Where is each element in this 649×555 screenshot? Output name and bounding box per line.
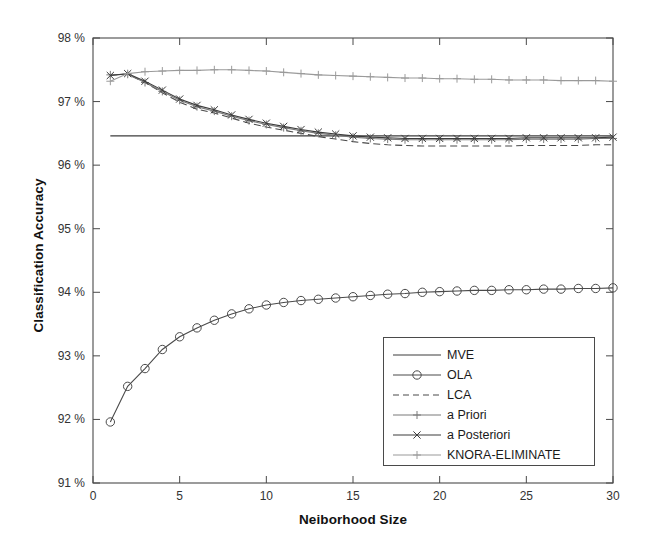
legend-swatch-knora-eliminate-icon: [391, 445, 443, 465]
legend-label: KNORA-ELIMINATE: [447, 448, 561, 462]
legend-swatch-a-priori-icon: [391, 405, 443, 425]
chart-legend: MVEOLALCAa Prioria PosterioriKNORA-ELIMI…: [383, 337, 595, 466]
series-lca: [110, 74, 613, 146]
legend-item-lca[interactable]: LCA: [384, 384, 596, 405]
legend-item-mve[interactable]: MVE: [384, 344, 596, 365]
legend-swatch-lca-icon: [391, 385, 443, 405]
legend-swatch-a-posteriori-icon: [391, 425, 443, 445]
legend-item-a-posteriori[interactable]: a Posteriori: [384, 424, 596, 445]
legend-swatch-ola-icon: [391, 365, 443, 385]
plot-canvas: [0, 0, 649, 555]
legend-label: a Priori: [447, 408, 487, 422]
legend-item-ola[interactable]: OLA: [384, 364, 596, 385]
legend-label: a Posteriori: [447, 428, 510, 442]
legend-swatch-mve-icon: [391, 345, 443, 365]
series-a-posteriori: [107, 70, 617, 142]
legend-label: LCA: [447, 388, 471, 402]
series-a-priori: [106, 70, 617, 143]
legend-label: MVE: [447, 348, 474, 362]
legend-label: OLA: [447, 368, 472, 382]
chart-figure: Classification Accuracy Neiborhood Size …: [0, 0, 649, 555]
legend-item-a-priori[interactable]: a Priori: [384, 404, 596, 425]
series-knora-eliminate: [106, 66, 617, 85]
legend-item-knora-eliminate[interactable]: KNORA-ELIMINATE: [384, 444, 596, 465]
